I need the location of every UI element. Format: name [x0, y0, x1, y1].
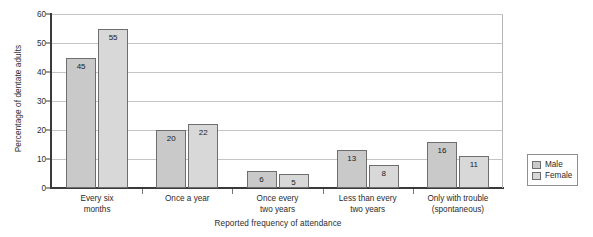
legend-swatch-female	[532, 172, 541, 180]
y-axis-tick-label: 20	[0, 126, 46, 135]
legend: Male Female	[527, 154, 578, 186]
legend-item-male: Male	[532, 159, 572, 170]
y-axis-tick-mark	[46, 130, 50, 131]
bar-male-4: 16	[427, 142, 457, 188]
bar-female-0: 55	[98, 29, 128, 189]
y-axis-tick-label: 50	[0, 39, 46, 48]
bar-value-label: 55	[99, 33, 127, 42]
bar-chart-figure: Percentage of dentate adults Reported fr…	[0, 0, 593, 237]
bar-value-label: 13	[338, 154, 366, 163]
y-axis-tick-label: 0	[0, 184, 46, 193]
x-axis-title: Reported frequency of attendance	[52, 219, 504, 228]
gridline	[52, 14, 503, 15]
bar-male-1: 20	[156, 130, 186, 188]
y-axis-tick-mark	[46, 14, 50, 15]
bar-value-label: 5	[280, 178, 308, 187]
y-axis-tick-label: 30	[0, 97, 46, 106]
bar-female-2: 5	[279, 174, 309, 189]
y-axis-tick-label: 40	[0, 68, 46, 77]
bar-male-3: 13	[337, 150, 367, 188]
bar-female-4: 11	[459, 156, 489, 188]
y-axis-tick-mark	[46, 188, 50, 189]
bar-value-label: 11	[460, 160, 488, 169]
legend-swatch-male	[532, 161, 541, 169]
bar-value-label: 8	[370, 169, 398, 178]
y-axis-tick-label: 60	[0, 10, 46, 19]
legend-item-female: Female	[532, 170, 572, 181]
y-axis-tick-mark	[46, 101, 50, 102]
bar-value-label: 45	[67, 62, 95, 71]
x-axis-category-label: Only with trouble(spontaneous)	[405, 194, 511, 215]
plot-area: 45206131655225811	[52, 14, 503, 188]
y-axis-tick-mark	[46, 159, 50, 160]
bar-value-label: 16	[428, 146, 456, 155]
y-axis-tick-label: 10	[0, 155, 46, 164]
bar-value-label: 22	[189, 128, 217, 137]
y-axis-tick-mark	[46, 43, 50, 44]
y-axis-tick-mark	[46, 72, 50, 73]
bar-male-2: 6	[247, 171, 277, 188]
bar-value-label: 6	[248, 175, 276, 184]
category-label-line: (spontaneous)	[405, 205, 511, 216]
bar-female-1: 22	[188, 124, 218, 188]
bar-male-0: 45	[66, 58, 96, 189]
legend-label-male: Male	[545, 160, 563, 169]
category-label-line: Only with trouble	[405, 194, 511, 205]
bar-female-3: 8	[369, 165, 399, 188]
bar-value-label: 20	[157, 134, 185, 143]
category-label-line: months	[44, 205, 150, 216]
legend-label-female: Female	[545, 171, 572, 180]
